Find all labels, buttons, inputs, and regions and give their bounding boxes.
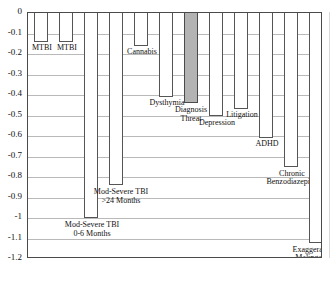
gridline: [28, 95, 321, 96]
bar-label: ADHD: [245, 140, 289, 149]
gridline: [28, 198, 321, 199]
y-tick-label: -0.4: [8, 89, 22, 98]
bar-label: Cannabis: [120, 48, 164, 57]
y-tick-label: -1.2: [8, 253, 22, 262]
y-tick-label: -1: [15, 212, 23, 221]
gridline: [28, 157, 321, 158]
gridline: [28, 239, 321, 240]
bar-mtbi[interactable]: [59, 13, 73, 42]
gridline: [28, 75, 321, 76]
y-tick-label: -0.9: [8, 192, 22, 201]
bar-label: Exaggeration/ Malingering: [277, 246, 322, 258]
y-tick-label: -0.1: [8, 28, 22, 37]
bar-label: MTBI: [55, 44, 79, 53]
y-axis: 0-0.1-0.2-0.3-0.4-0.5-0.6-0.7-0.8-0.9-1-…: [0, 0, 25, 285]
gridline: [28, 54, 321, 55]
bar-depression[interactable]: [209, 13, 223, 116]
y-tick-label: -0.7: [8, 151, 22, 160]
y-tick-label: -0.6: [8, 130, 22, 139]
bar-cannabis[interactable]: [134, 13, 148, 46]
y-tick-label: -0.8: [8, 171, 22, 180]
y-tick-label: -0.3: [8, 69, 22, 78]
bar-exaggeration-malingering[interactable]: [309, 13, 322, 243]
plot-area: MTBIMTBIMod-Severe TBI 0-6 MonthsMod-Sev…: [27, 12, 322, 258]
y-tick-label: 0: [18, 7, 23, 16]
gridline: [28, 136, 321, 137]
y-tick-label: -0.2: [8, 48, 22, 57]
bar-adhd[interactable]: [259, 13, 273, 138]
gridline: [28, 218, 321, 219]
bar-label: Mod-Severe TBI 0-6 Months: [55, 221, 129, 238]
bar-mod-severe-tbi-24-months[interactable]: [109, 13, 123, 185]
bar-litigation[interactable]: [234, 13, 248, 109]
outer-right-rule: [329, 12, 330, 258]
bar-dysthymia[interactable]: [159, 13, 173, 97]
bar-label: MTBI: [30, 44, 54, 53]
bar-chart: 0-0.1-0.2-0.3-0.4-0.5-0.6-0.7-0.8-0.9-1-…: [0, 0, 331, 285]
bar-chronic-benzodiazepine[interactable]: [284, 13, 298, 167]
bar-diagnosis-threat[interactable]: [184, 13, 198, 103]
y-tick-label: -1.1: [8, 233, 22, 242]
y-tick-label: -0.5: [8, 110, 22, 119]
bar-label: Mod-Severe TBI >24 Months: [85, 188, 157, 205]
bar-mtbi[interactable]: [34, 13, 48, 42]
